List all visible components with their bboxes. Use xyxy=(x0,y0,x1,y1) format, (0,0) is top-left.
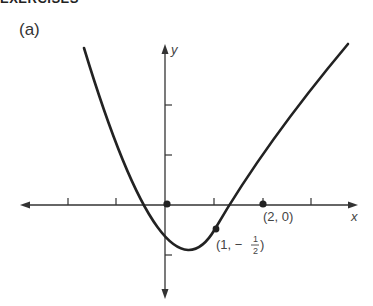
parabola-curve xyxy=(84,44,348,250)
y-axis-label: y xyxy=(170,42,179,57)
point-label-2-0: (2, 0) xyxy=(263,209,293,224)
svg-text:2: 2 xyxy=(253,246,258,256)
x-axis-right-arrow-icon xyxy=(348,202,358,209)
svg-text:): ) xyxy=(260,237,264,252)
x-axis-left-arrow-icon xyxy=(20,202,30,209)
svg-text:1: 1 xyxy=(253,234,258,244)
svg-text:(1, −: (1, − xyxy=(216,237,242,252)
parabola-chart: y x (2, 0) (1, − 1 2 ) xyxy=(0,0,373,306)
point-origin xyxy=(163,200,170,207)
point-2-0 xyxy=(259,200,266,207)
y-axis xyxy=(162,44,173,299)
point-label-vertex: (1, − 1 2 ) xyxy=(216,234,264,256)
x-axis xyxy=(20,198,358,209)
y-axis-down-arrow-icon xyxy=(162,289,169,299)
x-axis-label: x xyxy=(350,209,358,224)
y-axis-up-arrow-icon xyxy=(162,44,169,54)
point-vertex xyxy=(213,226,220,233)
